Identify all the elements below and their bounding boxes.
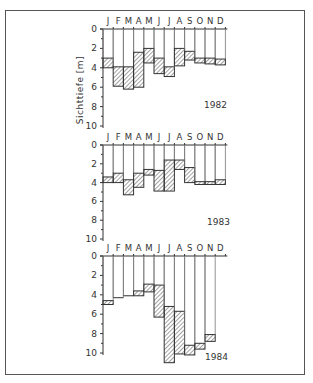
y-tick-label: 8: [91, 102, 97, 112]
range-bar: [144, 48, 154, 63]
year-label: 1984: [205, 352, 228, 362]
month-label: D: [217, 16, 224, 26]
month-label: F: [116, 16, 121, 26]
range-bar: [103, 301, 113, 305]
range-bar: [103, 58, 113, 68]
month-label: S: [187, 16, 192, 26]
y-tick-label: 4: [91, 290, 97, 300]
range-bar: [154, 58, 164, 74]
month-label: J: [106, 243, 110, 253]
month-label: S: [187, 132, 192, 142]
month-label: J: [167, 132, 171, 142]
y-tick-label: 4: [91, 63, 97, 73]
range-bar: [195, 58, 205, 63]
range-bar: [164, 306, 174, 362]
month-label: A: [177, 132, 183, 142]
panel-1982: 0246810JFMAMJJASOND1982: [86, 16, 228, 131]
month-label: N: [207, 243, 213, 253]
month-label: J: [157, 16, 161, 26]
range-bar: [215, 59, 225, 65]
y-tick-label: 0: [91, 251, 97, 261]
month-label: M: [125, 243, 132, 253]
month-label: A: [136, 16, 142, 26]
range-bar: [134, 291, 144, 296]
year-label: 1982: [204, 100, 227, 110]
y-tick-label: 6: [91, 82, 97, 92]
range-bar: [123, 67, 133, 89]
month-label: O: [197, 16, 204, 26]
y-tick-label: 2: [91, 270, 97, 280]
range-bar: [144, 284, 154, 292]
range-bar: [174, 160, 184, 169]
month-label: A: [136, 132, 142, 142]
y-tick-label: 8: [91, 329, 97, 339]
month-label: O: [197, 132, 204, 142]
range-bar: [134, 52, 144, 87]
month-label: A: [177, 243, 183, 253]
month-label: M: [145, 243, 152, 253]
month-label: J: [167, 243, 171, 253]
month-label: N: [207, 132, 213, 142]
y-tick-label: 10: [86, 121, 98, 131]
month-label: N: [207, 16, 213, 26]
y-tick-label: 6: [91, 309, 97, 319]
range-bar: [113, 67, 123, 86]
month-label: F: [116, 132, 121, 142]
range-bar: [185, 168, 195, 183]
month-label: S: [187, 243, 192, 253]
range-bar: [185, 345, 195, 355]
range-bar: [164, 160, 174, 191]
range-bar: [123, 180, 133, 195]
month-label: F: [116, 243, 121, 253]
month-label: M: [145, 16, 152, 26]
y-tick-label: 2: [91, 43, 97, 53]
range-bar: [113, 173, 123, 182]
month-label: J: [106, 132, 110, 142]
range-bar: [195, 182, 205, 185]
range-bar: [205, 58, 215, 64]
month-label: O: [197, 243, 204, 253]
range-bar: [164, 67, 174, 77]
y-tick-label: 0: [91, 140, 97, 150]
month-label: M: [145, 132, 152, 142]
month-label: J: [106, 16, 110, 26]
y-tick-label: 10: [86, 348, 98, 358]
range-bar: [185, 51, 195, 60]
secchi-depth-chart: 0246810JFMAMJJASOND19820246810JFMAMJJASO…: [0, 0, 313, 383]
range-bar: [174, 48, 184, 65]
range-bar: [134, 173, 144, 187]
panel-1984: 0246810JFMAMJJASOND1984: [86, 243, 229, 363]
range-bar: [103, 177, 113, 183]
month-label: A: [136, 243, 142, 253]
range-bar: [174, 311, 184, 354]
month-label: J: [157, 243, 161, 253]
month-label: J: [157, 132, 161, 142]
range-bar: [215, 180, 225, 185]
month-label: A: [177, 16, 183, 26]
month-label: D: [217, 243, 224, 253]
y-tick-label: 0: [91, 24, 97, 34]
range-bar: [205, 182, 215, 185]
month-label: D: [217, 132, 224, 142]
y-tick-label: 2: [91, 159, 97, 169]
range-bar: [195, 343, 205, 349]
panel-1983: 0246810JFMAMJJASOND1983: [86, 132, 230, 244]
range-bar: [144, 169, 154, 175]
y-tick-label: 6: [91, 196, 97, 206]
year-label: 1983: [207, 217, 230, 227]
month-label: J: [167, 16, 171, 26]
range-bar: [205, 335, 215, 342]
range-bar: [154, 170, 164, 191]
y-tick-label: 10: [86, 234, 98, 244]
y-tick-label: 4: [91, 178, 97, 188]
y-tick-label: 8: [91, 215, 97, 225]
month-label: M: [125, 132, 132, 142]
month-label: M: [125, 16, 132, 26]
range-bar: [154, 285, 164, 317]
